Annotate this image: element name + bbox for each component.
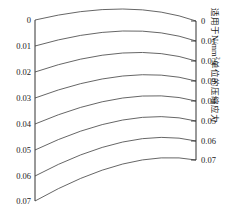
isopleth-curve	[35, 52, 196, 72]
right-axis-tick-label: 0	[201, 17, 205, 26]
isopleth-curve	[35, 117, 196, 150]
isopleth-curve	[35, 96, 196, 124]
chart-canvas	[0, 0, 240, 223]
left-axis-tick-label: 0.02	[16, 68, 31, 77]
isopleth-curve	[35, 9, 196, 21]
isopleth-curve	[35, 75, 196, 98]
left-axis-tick-label: 0	[27, 16, 31, 25]
left-axis-tick-label: 0.03	[16, 94, 31, 103]
axis-lines	[35, 20, 196, 201]
left-axis-tick-label: 0.07	[16, 197, 31, 206]
left-axis-tick-label: 0.04	[16, 120, 31, 129]
axis-ticks	[191, 21, 196, 160]
isopleth-curves	[35, 9, 196, 201]
left-axis-tick-label: 0.01	[16, 42, 31, 51]
right-axis-tick-label: 0.07	[201, 156, 216, 165]
right-axis-tick-label: 0.06	[201, 137, 216, 146]
nomogram-chart: 00.010.020.030.040.050.060.07 00.010.020…	[0, 0, 240, 223]
isopleth-curve	[35, 31, 196, 46]
left-axis-tick-label: 0.05	[16, 146, 31, 155]
left-axis-tick-label: 0.06	[16, 172, 31, 181]
isopleth-curve	[35, 137, 196, 176]
right-axis-title: 适用于N/mm2单位的压缩应力	[210, 8, 221, 24]
